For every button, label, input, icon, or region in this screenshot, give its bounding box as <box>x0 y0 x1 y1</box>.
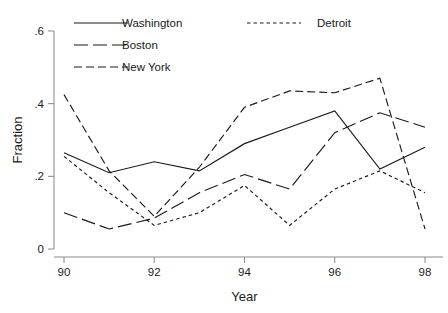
y-tick-label: .2 <box>34 170 44 182</box>
legend-label-boston: Boston <box>122 39 158 51</box>
series-line-washington <box>64 111 425 173</box>
x-tick-label: 92 <box>148 266 161 278</box>
x-tick-label: 90 <box>58 266 71 278</box>
chart-legend: WashingtonDetroitBostonNew York <box>74 17 352 73</box>
y-tick-label: .4 <box>34 98 44 110</box>
series-line-detroit <box>64 156 425 225</box>
series-lines <box>64 78 425 229</box>
axes: 0.2.4.69092949698 <box>34 25 443 278</box>
legend-label-new-york: New York <box>122 61 171 73</box>
axis-titles: YearFraction <box>10 117 258 304</box>
x-tick-label: 96 <box>328 266 341 278</box>
series-line-new-york <box>64 78 425 229</box>
legend-label-detroit: Detroit <box>317 17 352 29</box>
y-tick-label: 0 <box>38 243 44 255</box>
x-axis-title: Year <box>231 289 258 304</box>
chart-figure: 0.2.4.69092949698 WashingtonDetroitBosto… <box>0 0 448 313</box>
x-tick-label: 94 <box>238 266 251 278</box>
legend-label-washington: Washington <box>122 17 182 29</box>
line-chart: 0.2.4.69092949698 WashingtonDetroitBosto… <box>0 0 448 313</box>
y-axis-title: Fraction <box>10 117 25 164</box>
x-tick-label: 98 <box>419 266 432 278</box>
y-tick-label: .6 <box>34 25 44 37</box>
